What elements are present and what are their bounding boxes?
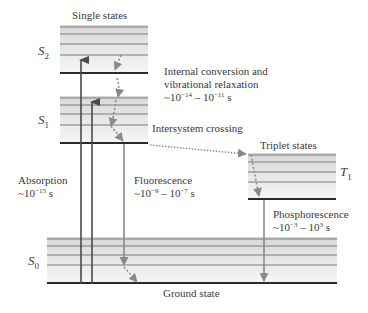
- t1-energy-band: [248, 153, 336, 199]
- s2-energy-band: [60, 25, 148, 73]
- triplet-states-header: Triplet states: [260, 139, 317, 152]
- fluorescence-label: Fluorescence ~10−9 – 10−7 s: [134, 174, 195, 200]
- jablonski-diagram: [0, 0, 368, 313]
- singlet-states-header: Single states: [72, 9, 127, 22]
- intersystem-crossing-label: Intersystem crossing: [152, 122, 243, 135]
- s0-energy-band: [47, 237, 337, 283]
- absorption-label: Absorption ~10−15 s: [18, 174, 68, 200]
- state-s0-label: S0: [28, 253, 39, 271]
- state-s1-label: S1: [38, 112, 49, 130]
- phosphorescence-label: Phosphorescence ~10−3 – 103 s: [273, 208, 349, 234]
- state-t1-label: T1: [340, 164, 352, 182]
- ground-state-label: Ground state: [163, 287, 220, 300]
- intersystem-crossing-arrow: [150, 145, 246, 154]
- state-s2-label: S2: [38, 43, 49, 61]
- internal-conversion-label: Internal conversion and vibrational rela…: [164, 65, 268, 104]
- s1-energy-band: [60, 96, 148, 143]
